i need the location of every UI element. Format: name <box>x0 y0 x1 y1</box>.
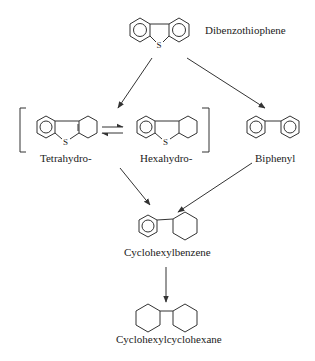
biphenyl-structure <box>247 116 299 138</box>
sulfur-atom-label: S <box>157 40 162 50</box>
label-biphenyl: Biphenyl <box>255 152 295 164</box>
label-cyclohexylcyclohexane: Cyclohexylcyclohexane <box>116 333 222 345</box>
cyclohexylbenzene-structure <box>139 212 197 240</box>
label-tetrahydro: Tetrahydro- <box>40 152 92 164</box>
diagram-graphics: S S S <box>0 0 315 361</box>
arrow-biphenyl-to-chb <box>178 163 252 212</box>
sulfur-atom-label: S <box>163 137 168 147</box>
arrow-dbt-to-hydro <box>118 58 152 108</box>
dibenzothiophene-structure: S <box>130 18 189 50</box>
label-dibenzothiophene: Dibenzothiophene <box>205 24 286 36</box>
label-hexahydro: Hexahydro- <box>140 152 193 164</box>
arrow-dbt-to-biphenyl <box>187 58 265 108</box>
right-bracket <box>202 108 209 152</box>
reaction-diagram: S S S <box>0 0 315 361</box>
sulfur-atom-label: S <box>63 137 68 147</box>
left-bracket <box>20 108 26 152</box>
hexahydro-structure: S <box>137 116 197 147</box>
arrow-hydro-to-chb <box>120 168 150 205</box>
label-cyclohexylbenzene: Cyclohexylbenzene <box>124 246 211 258</box>
cyclohexylcyclohexane-structure <box>136 304 197 332</box>
tetrahydro-structure: S <box>37 116 97 147</box>
